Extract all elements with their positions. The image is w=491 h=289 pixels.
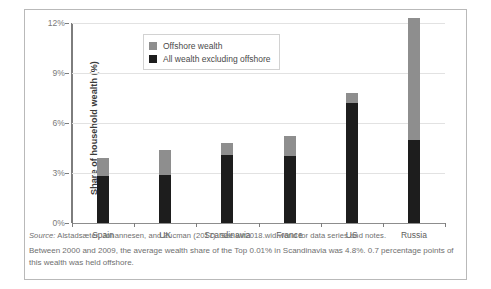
legend-label: Offshore wealth [163, 41, 222, 51]
y-axis-tick-mark [65, 73, 69, 74]
x-axis-tick-mark [259, 223, 260, 227]
stacked-bar[interactable] [346, 93, 358, 223]
bar-segment-excluding-offshore [159, 175, 171, 223]
legend-swatch-icon [149, 55, 157, 63]
y-axis-tick-mark [65, 173, 69, 174]
y-axis-tick-label: 3% [53, 168, 66, 178]
note-line: Between 2000 and 2009, the average wealt… [29, 245, 459, 268]
y-axis-tick-label: 9% [53, 68, 66, 78]
stacked-bar[interactable] [408, 18, 420, 223]
bar-segment-excluding-offshore [408, 140, 420, 223]
y-axis-tick-label: 12% [48, 18, 65, 28]
bar-segment-excluding-offshore [221, 155, 233, 223]
y-axis-tick-label: 0% [53, 218, 66, 228]
bar-segment-offshore-wealth [346, 93, 358, 103]
bar-segment-offshore-wealth [284, 136, 296, 156]
figure-container: Share of household wealth (%) 0%3%6%9%12… [24, 9, 467, 280]
legend-swatch-icon [149, 42, 157, 50]
y-axis-tick-mark [65, 223, 69, 224]
bar-group [72, 23, 134, 223]
stacked-bar[interactable] [284, 136, 296, 223]
x-axis-tick-mark [383, 223, 384, 227]
legend-label: All wealth excluding offshore [163, 54, 271, 64]
y-axis-tick-mark [65, 23, 69, 24]
bar-segment-offshore-wealth [97, 158, 109, 176]
x-axis-tick-mark [196, 223, 197, 227]
bar-segment-excluding-offshore [346, 103, 358, 223]
y-axis-tick-labels: 0%3%6%9%12% [25, 23, 65, 223]
x-axis-tick-mark [321, 223, 322, 227]
legend-item[interactable]: All wealth excluding offshore [149, 52, 271, 65]
bar-segment-excluding-offshore [97, 176, 109, 224]
source-prefix: Source: [29, 231, 56, 240]
stacked-bar[interactable] [221, 143, 233, 223]
source-line: Source: Alstadsæter, Johannesen, and Zuc… [29, 231, 459, 240]
bar-segment-offshore-wealth [159, 150, 171, 175]
bar-segment-offshore-wealth [408, 18, 420, 140]
x-axis-tick-mark [72, 223, 73, 227]
y-axis-tick-mark [65, 123, 69, 124]
legend-item[interactable]: Offshore wealth [149, 39, 271, 52]
bar-group [321, 23, 383, 223]
chart-legend: Offshore wealthAll wealth excluding offs… [143, 34, 280, 70]
stacked-bar[interactable] [159, 150, 171, 223]
bar-segment-excluding-offshore [284, 156, 296, 223]
bar-segment-offshore-wealth [221, 143, 233, 155]
x-axis-tick-mark [445, 223, 446, 227]
bar-group [383, 23, 445, 223]
x-axis-tick-mark [134, 223, 135, 227]
source-text: Alstadsæter, Johannesen, and Zucman (201… [56, 231, 387, 240]
y-axis-tick-label: 6% [53, 118, 66, 128]
stacked-bar[interactable] [97, 158, 109, 223]
footnotes: Source: Alstadsæter, Johannesen, and Zuc… [29, 231, 459, 268]
